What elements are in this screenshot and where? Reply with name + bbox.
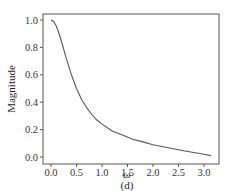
magnitude-curve <box>51 20 211 156</box>
x-tick-label: 0.5 <box>70 167 83 178</box>
x-tick-label: 2.0 <box>146 167 159 178</box>
y-axis-ticks: 0.00.20.40.60.81.0 <box>25 15 43 163</box>
y-axis-label: Magnitude <box>5 65 17 113</box>
x-tick-label: 3.0 <box>197 167 210 178</box>
magnitude-chart: 0.00.20.40.60.81.0 0.00.51.01.52.02.53.0… <box>0 0 227 191</box>
plot-frame <box>43 14 219 164</box>
x-tick-label: 1.0 <box>95 167 108 178</box>
y-tick-label: 0.4 <box>25 97 39 108</box>
figure-caption: (d) <box>121 179 134 191</box>
y-tick-label: 0.2 <box>25 124 38 135</box>
y-tick-label: 1.0 <box>25 15 38 26</box>
x-tick-label: 2.5 <box>172 167 185 178</box>
y-tick-label: 0.8 <box>25 42 38 53</box>
x-tick-label: 0.0 <box>44 167 57 178</box>
y-tick-label: 0.0 <box>25 152 38 163</box>
y-tick-label: 0.6 <box>25 69 38 80</box>
